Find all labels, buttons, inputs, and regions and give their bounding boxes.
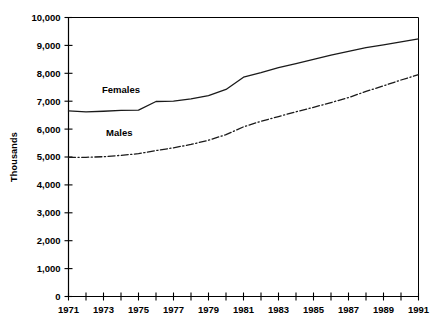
y-axis-tick-label: 7,000: [37, 96, 61, 107]
x-axis-tick-label: 1985: [303, 304, 325, 315]
x-axis-tick-label: 1983: [268, 304, 289, 315]
y-axis-tick-label: 1,000: [37, 263, 61, 274]
x-axis-tick-label: 1973: [93, 304, 114, 315]
y-axis-tick-label: 4,000: [37, 179, 61, 190]
y-axis-tick-label: 0: [55, 291, 60, 302]
x-axis-tick-label: 1971: [58, 304, 80, 315]
series-line-females: [69, 39, 419, 112]
series-label-females: Females: [102, 84, 140, 95]
y-axis-tick-label: 3,000: [37, 207, 61, 218]
series-label-males: Males: [106, 127, 132, 138]
line-chart: 01,0002,0003,0004,0005,0006,0007,0008,00…: [0, 0, 437, 328]
x-axis-tick-label: 1989: [373, 304, 394, 315]
x-axis-tick-label: 1975: [128, 304, 150, 315]
x-axis-tick-label: 1977: [163, 304, 184, 315]
y-axis-tick-label: 2,000: [37, 235, 61, 246]
x-axis-tick-label: 1991: [408, 304, 430, 315]
y-axis-tick-label: 10,000: [31, 12, 60, 23]
y-axis-tick-label: 6,000: [37, 124, 61, 135]
chart-canvas: 01,0002,0003,0004,0005,0006,0007,0008,00…: [0, 0, 437, 328]
y-axis-tick-label: 8,000: [37, 68, 61, 79]
y-axis-tick-label: 9,000: [37, 40, 61, 51]
x-axis-tick-label: 1981: [233, 304, 255, 315]
x-axis-tick-label: 1979: [198, 304, 219, 315]
y-axis-tick-label: 5,000: [37, 151, 61, 162]
x-axis-tick-label: 1987: [338, 304, 359, 315]
y-axis-title: Thousands: [9, 132, 19, 182]
